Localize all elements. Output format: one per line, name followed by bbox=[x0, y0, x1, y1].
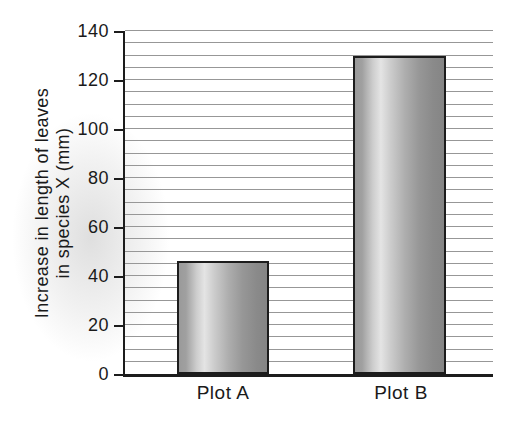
y-axis-tick bbox=[114, 325, 123, 327]
y-axis-tick-labels: 020406080100120140 bbox=[0, 31, 109, 374]
bar-plot-a bbox=[177, 261, 269, 374]
y-axis-tick bbox=[114, 276, 123, 278]
y-axis-tick bbox=[114, 178, 123, 180]
y-axis-tick bbox=[114, 374, 123, 376]
gridline bbox=[125, 30, 493, 31]
y-tick-label: 40 bbox=[0, 267, 109, 285]
y-tick-label: 120 bbox=[0, 71, 109, 89]
y-tick-label: 20 bbox=[0, 316, 109, 334]
gridline bbox=[125, 42, 493, 43]
plot-area bbox=[123, 31, 493, 377]
y-axis-tick bbox=[114, 80, 123, 82]
y-tick-label: 0 bbox=[0, 365, 109, 383]
y-tick-label: 80 bbox=[0, 169, 109, 187]
y-tick-label: 140 bbox=[0, 22, 109, 40]
y-axis-tick bbox=[114, 129, 123, 131]
x-axis-category-labels: Plot A Plot B bbox=[125, 382, 493, 408]
y-axis-tick bbox=[114, 31, 123, 33]
y-tick-label: 100 bbox=[0, 120, 109, 138]
bar-plot-b bbox=[353, 56, 446, 374]
y-axis-tick bbox=[114, 227, 123, 229]
category-label-plot-a: Plot A bbox=[197, 382, 250, 404]
y-tick-label: 60 bbox=[0, 218, 109, 236]
category-label-plot-b: Plot B bbox=[374, 382, 428, 404]
bar-chart: Increase in length of leaves in species … bbox=[0, 0, 511, 421]
